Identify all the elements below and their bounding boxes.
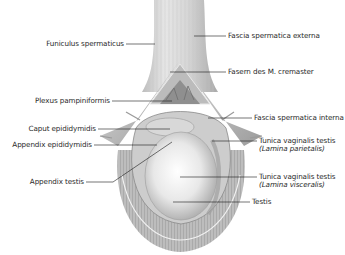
label-testis: Testis — [252, 198, 271, 206]
label-plexus-pampiniformis: Plexus pampiniformis — [4, 97, 110, 105]
label-tv-visceralis-sub: (Lamina visceralis) — [259, 181, 336, 189]
label-fasern-cremaster: Fasern des M. cremaster — [228, 68, 314, 76]
label-tunica-vaginalis-visceralis: Tunica vaginalis testis (Lamina visceral… — [259, 173, 336, 189]
label-funiculus-spermaticus: Funiculus spermaticus — [10, 40, 124, 48]
label-fascia-spermatica-interna: Fascia spermatica interna — [254, 114, 344, 122]
label-fascia-spermatica-externa: Fascia spermatica externa — [228, 32, 320, 40]
anatomy-diagram: Funiculus spermaticus Plexus pampiniform… — [0, 0, 345, 255]
label-appendix-testis: Appendix testis — [0, 178, 84, 186]
label-appendix-epididymidis: Appendix epididymidis — [0, 141, 92, 149]
label-tv-parietalis-sub: (Lamina parietalis) — [259, 145, 336, 153]
label-tunica-vaginalis-parietalis: Tunica vaginalis testis (Lamina parietal… — [259, 137, 336, 153]
label-caput-epididymidis: Caput epididymidis — [0, 125, 96, 133]
